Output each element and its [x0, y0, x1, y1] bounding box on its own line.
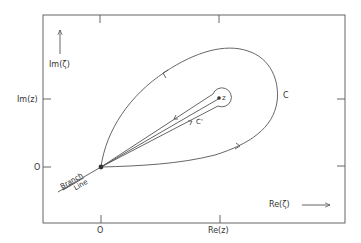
contour-diagram: Im(ζ) Re(ζ) Im(z) O O Re(z) Branch Line …	[0, 0, 361, 243]
x-axis-indicator: Re(ζ)	[269, 200, 330, 209]
contour-c-prime-label: C'	[196, 118, 203, 126]
contour-c	[101, 48, 278, 167]
bottom-tick-label-origin: O	[97, 226, 103, 235]
y-axis-indicator: Im(ζ)	[49, 30, 70, 69]
contour-c-prime-upper	[101, 94, 213, 167]
left-tick-label-origin: O	[34, 163, 40, 172]
branch-cut-center	[101, 98, 220, 167]
left-tick-label-imz: Im(z)	[17, 95, 38, 104]
origin-point	[99, 165, 104, 170]
z-point-label: z	[222, 94, 226, 102]
contour-c-arrow-top-icon	[163, 70, 168, 78]
branch-line-label: Branch Line	[59, 171, 89, 198]
bottom-tick-label-rez: Re(z)	[208, 226, 229, 235]
z-point	[217, 96, 221, 100]
contour-c-label: C	[283, 91, 289, 100]
x-axis-label: Re(ζ)	[269, 200, 290, 209]
y-axis-label: Im(ζ)	[49, 60, 70, 69]
